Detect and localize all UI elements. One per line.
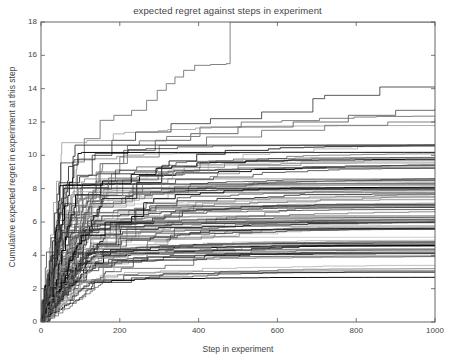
series-layer (41, 22, 435, 322)
regret-trajectory (41, 217, 435, 322)
x-axis-label: Step in experiment (41, 344, 435, 354)
regret-trajectory (41, 277, 435, 322)
regret-trajectory (41, 200, 435, 322)
plot-area (0, 0, 455, 364)
regret-trajectory (41, 257, 435, 322)
regret-trajectory (41, 196, 435, 322)
regret-chart-figure: expected regret against steps in experim… (0, 0, 455, 364)
